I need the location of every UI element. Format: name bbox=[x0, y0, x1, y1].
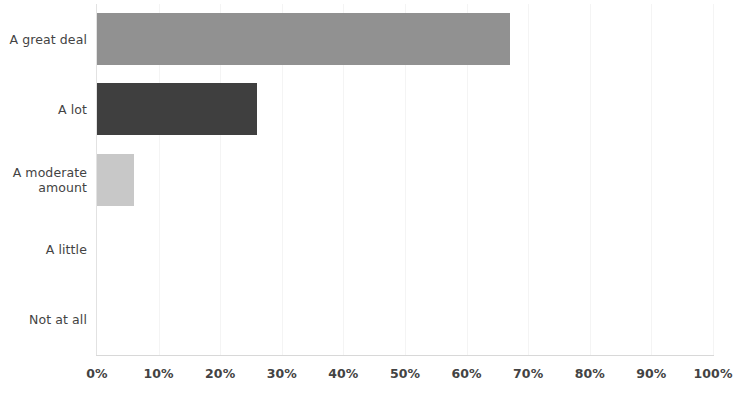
category-label-a-great-deal: A great deal bbox=[0, 32, 87, 47]
x-tick-label: 70% bbox=[498, 366, 558, 382]
bar-row bbox=[97, 294, 713, 346]
bar-row bbox=[97, 83, 713, 135]
category-label-line: A lot bbox=[0, 102, 87, 117]
gridline-100 bbox=[713, 4, 714, 355]
x-tick-label: 0% bbox=[67, 366, 127, 382]
category-label-line: A moderate bbox=[0, 165, 87, 180]
category-label-a-lot: A lot bbox=[0, 102, 87, 117]
category-label-line: A great deal bbox=[0, 32, 87, 47]
x-tick-label: 60% bbox=[437, 366, 497, 382]
x-tick-label: 90% bbox=[621, 366, 681, 382]
x-tick-label: 80% bbox=[560, 366, 620, 382]
bar-a-lot bbox=[97, 83, 257, 135]
bar-row bbox=[97, 224, 713, 276]
category-label-not-at-all: Not at all bbox=[0, 312, 87, 327]
bar-row bbox=[97, 154, 713, 206]
category-label-line: A little bbox=[0, 242, 87, 257]
x-tick-label: 10% bbox=[129, 366, 189, 382]
category-label-line: Not at all bbox=[0, 312, 87, 327]
plot-area bbox=[97, 4, 713, 355]
x-tick-label: 100% bbox=[683, 366, 737, 382]
x-tick-label: 30% bbox=[252, 366, 312, 382]
category-label-line: amount bbox=[0, 180, 87, 195]
bar-a-great-deal bbox=[97, 13, 510, 65]
bar-row bbox=[97, 13, 713, 65]
x-tick-label: 50% bbox=[375, 366, 435, 382]
x-tick-label: 40% bbox=[313, 366, 373, 382]
category-label-a-moderate-amount: A moderateamount bbox=[0, 165, 87, 195]
category-label-a-little: A little bbox=[0, 242, 87, 257]
x-axis-line bbox=[96, 355, 714, 356]
bar-a-moderate-amount bbox=[97, 154, 134, 206]
x-tick-label: 20% bbox=[190, 366, 250, 382]
